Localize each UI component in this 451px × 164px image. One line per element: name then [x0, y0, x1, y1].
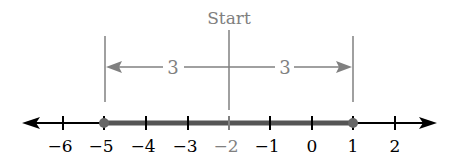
- tick-label: −6: [47, 136, 72, 156]
- left-distance-label: 3: [167, 57, 178, 78]
- tick-label: −5: [88, 136, 113, 156]
- tick-label: 0: [307, 136, 318, 156]
- endpoint-dot-minus-5: [99, 118, 109, 128]
- tick-label: −1: [254, 136, 279, 156]
- tick-label: −4: [130, 136, 155, 156]
- start-label: Start: [207, 8, 251, 28]
- right-distance-label: 3: [279, 57, 290, 78]
- tick-label: −3: [172, 136, 197, 156]
- number-line-diagram: Start 3 3: [0, 0, 451, 164]
- tick-label: 2: [390, 136, 401, 156]
- endpoint-dot-1: [348, 118, 358, 128]
- tick-label: 1: [348, 136, 359, 156]
- tick-label-start: −2: [213, 136, 238, 156]
